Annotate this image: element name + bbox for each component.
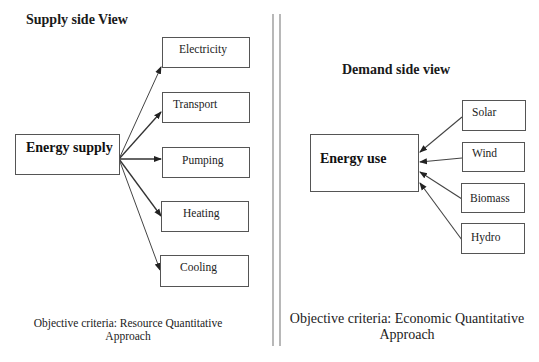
wind-box: Wind	[462, 142, 525, 172]
electricity-label: Electricity	[179, 43, 227, 55]
biomass-box: Biomass	[461, 183, 525, 213]
electricity-box: Electricity	[162, 37, 250, 68]
solar-box: Solar	[462, 100, 526, 131]
heating-label: Heating	[183, 207, 219, 219]
arrow-solar-energy-use	[420, 117, 462, 152]
arrow-supply-cooling	[119, 159, 160, 270]
cooling-label: Cooling	[180, 261, 217, 273]
supply-caption: Objective criteria: Resource Quantitativ…	[20, 317, 236, 343]
supply-caption-line2: Approach	[20, 330, 236, 343]
pumping-box: Pumping	[162, 147, 250, 178]
arrow-supply-transport	[119, 112, 161, 159]
arrow-hydro-energy-use	[420, 183, 462, 240]
demand-caption: Objective criteria: Economic Quantitativ…	[284, 311, 530, 343]
transport-label: Transport	[173, 98, 217, 110]
demand-caption-line2: Approach	[284, 327, 530, 343]
supply-caption-line1: Objective criteria: Resource Quantitativ…	[20, 317, 236, 330]
pumping-label: Pumping	[182, 154, 224, 166]
arrow-wind-energy-use	[420, 158, 462, 162]
connector-layer	[0, 0, 539, 362]
hydro-label: Hydro	[471, 231, 500, 243]
energy-use-label: Energy use	[320, 151, 387, 167]
supply-side-title: Supply side View	[26, 12, 128, 28]
arrow-supply-heating	[119, 159, 161, 216]
cooling-box: Cooling	[160, 255, 249, 287]
heating-box: Heating	[161, 201, 249, 232]
hydro-box: Hydro	[461, 223, 525, 254]
solar-label: Solar	[472, 106, 496, 118]
demand-side-title: Demand side view	[342, 62, 450, 78]
demand-caption-line1: Objective criteria: Economic Quantitativ…	[284, 311, 530, 327]
energy-supply-box: Energy supply	[15, 134, 120, 175]
energy-supply-label: Energy supply	[26, 140, 113, 156]
arrow-supply-electricity	[119, 67, 161, 159]
wind-label: Wind	[472, 147, 497, 159]
biomass-label: Biomass	[470, 192, 510, 204]
arrow-biomass-energy-use	[420, 172, 462, 199]
energy-use-box: Energy use	[310, 134, 419, 192]
transport-box: Transport	[162, 92, 250, 123]
